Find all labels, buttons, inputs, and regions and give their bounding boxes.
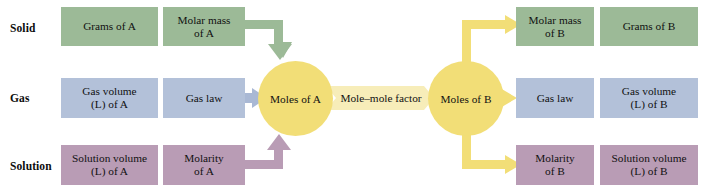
box-molarity-of-b[interactable]: Molarity of B <box>516 145 594 185</box>
box-grams-of-b[interactable]: Grams of B <box>600 7 698 46</box>
box-molar-mass-of-a[interactable]: Molar mass of A <box>163 7 245 46</box>
circle-moles-of-a[interactable]: Moles of A <box>258 61 333 136</box>
box-solution-volume-of-a-line1: Solution volume <box>72 152 147 165</box>
row-label-gas: Gas <box>10 92 29 104</box>
box-grams-of-b-line1: Grams of B <box>623 20 676 33</box>
box-gas-volume-of-a-line2: (L) of A <box>91 98 128 111</box>
box-gas-volume-of-b-line1: Gas volume <box>622 85 676 98</box>
box-molar-mass-of-b[interactable]: Molar mass of B <box>516 7 594 46</box>
box-molarity-of-a-line2: of A <box>194 165 214 178</box>
box-molarity-of-b-line1: Molarity <box>535 152 575 165</box>
stoichiometry-flowchart: Solid Gas Solution Grams of A Molar mass… <box>0 0 704 196</box>
box-grams-of-a[interactable]: Grams of A <box>61 7 158 46</box>
mole-mole-factor-label: Mole–mole factor <box>336 92 426 104</box>
row-label-solid: Solid <box>10 22 35 34</box>
arrow-solid-a-to-moles <box>245 20 292 60</box>
box-molarity-of-a-line1: Molarity <box>184 152 224 165</box>
box-gas-volume-of-b[interactable]: Gas volume (L) of B <box>600 78 698 118</box>
box-solution-volume-of-a[interactable]: Solution volume (L) of A <box>61 145 158 185</box>
box-solution-volume-of-b-line1: Solution volume <box>611 152 686 165</box>
box-solution-volume-of-a-line2: (L) of A <box>91 165 128 178</box>
arrow-solution-a-to-moles <box>245 134 291 169</box>
box-gas-law-a[interactable]: Gas law <box>163 78 245 118</box>
box-solution-volume-of-b-line2: (L) of B <box>630 165 667 178</box>
box-solution-volume-of-b[interactable]: Solution volume (L) of B <box>600 145 698 185</box>
box-molar-mass-of-a-line2: of A <box>194 27 214 40</box>
box-gas-volume-of-b-line2: (L) of B <box>630 98 667 111</box>
circle-moles-of-b[interactable]: Moles of B <box>428 61 504 136</box>
box-molar-mass-of-b-line1: Molar mass <box>528 14 581 27</box>
circle-moles-of-b-label: Moles of B <box>441 93 492 105</box>
box-gas-volume-of-a[interactable]: Gas volume (L) of A <box>61 78 158 118</box>
box-gas-volume-of-a-line1: Gas volume <box>82 85 136 98</box>
box-molarity-of-b-line2: of B <box>545 165 565 178</box>
box-molar-mass-of-b-line2: of B <box>545 27 565 40</box>
box-grams-of-a-line1: Grams of A <box>83 20 136 33</box>
box-gas-law-b-line1: Gas law <box>537 92 574 105</box>
box-molar-mass-of-a-line1: Molar mass <box>177 14 230 27</box>
box-gas-law-a-line1: Gas law <box>186 92 223 105</box>
box-gas-law-b[interactable]: Gas law <box>516 78 594 118</box>
row-label-solution: Solution <box>10 160 52 172</box>
box-molarity-of-a[interactable]: Molarity of A <box>163 145 245 185</box>
circle-moles-of-a-label: Moles of A <box>270 93 321 105</box>
